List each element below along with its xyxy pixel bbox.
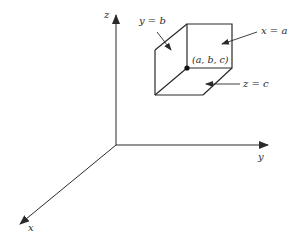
diagram-canvas: z y x y = b x = a z = c (a, b, c): [0, 0, 303, 242]
point-abc-dot: [184, 65, 189, 70]
y-plane-top-edge: [155, 24, 187, 50]
diagram-svg: [0, 0, 303, 242]
x-axis-label: x: [28, 223, 34, 233]
z-axis-label: z: [104, 10, 109, 20]
x-plane-arrow: [222, 32, 257, 44]
point-abc-label: (a, b, c): [192, 55, 229, 65]
corner-diagonal: [155, 68, 187, 95]
y-plane-label: y = b: [139, 16, 166, 26]
x-axis: [20, 145, 116, 224]
y-axis-label: y: [258, 152, 264, 162]
x-plane-label: x = a: [261, 26, 287, 36]
axes: [20, 15, 268, 224]
z-plane-label: z = c: [243, 79, 269, 89]
z-plane-right-edge: [203, 68, 232, 95]
